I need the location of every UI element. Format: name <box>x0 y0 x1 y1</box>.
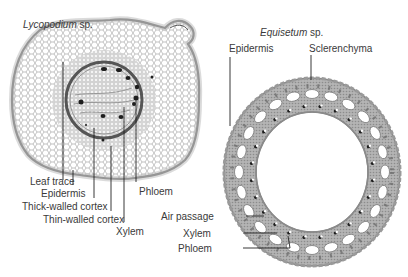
equisetum-air-passages <box>235 90 390 255</box>
label-xylem-lycopodium: Xylem <box>116 226 144 237</box>
label-xylem-equisetum: Xylem <box>183 228 211 239</box>
lycopodium-stele <box>66 62 142 138</box>
label-epidermis-equisetum: Epidermis <box>229 43 273 54</box>
label-sclerenchyma: Sclerenchyma <box>309 43 372 54</box>
label-leaf-trace: Leaf trace <box>30 176 74 187</box>
label-thin-walled-cortex: Thin-walled cortex <box>43 214 124 225</box>
label-air-passage: Air passage <box>161 211 214 222</box>
equisetum-title: Equisetum sp. <box>260 27 323 38</box>
label-thick-walled-cortex: Thick-walled cortex <box>22 201 108 212</box>
equisetum-genus: Equisetum <box>260 27 307 38</box>
label-epidermis-lycopodium: Epidermis <box>41 188 85 199</box>
lycopodium-section <box>12 19 199 179</box>
label-phloem-lycopodium: Phloem <box>139 186 173 197</box>
lycopodium-genus: Lycopodium <box>23 19 77 30</box>
lycopodium-title: Lycopodium sp. <box>23 19 93 30</box>
stem-cross-section-figure: Lycopodium sp. Equisetum sp. Leaf trace … <box>0 0 408 277</box>
equisetum-section <box>224 78 400 266</box>
lycopodium-species: sp. <box>77 19 93 30</box>
equisetum-species: sp. <box>307 27 323 38</box>
label-phloem-equisetum: Phloem <box>178 243 212 254</box>
